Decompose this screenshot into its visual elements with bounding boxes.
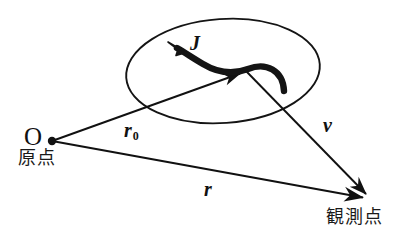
diagram-canvas [0,0,415,239]
vector-v-arrow [246,71,366,194]
label-observation-caption: 観測点 [326,208,383,226]
origin-dot [48,137,56,145]
label-vector-r0: r0 [124,120,139,142]
label-vector-r: r [204,179,212,199]
label-r0-symbol: r [124,119,132,141]
label-origin-caption: 原点 [18,149,56,167]
label-r0-subscript: 0 [133,129,140,143]
physics-vector-diagram: J r0 v r O 原点 観測点 [0,0,415,239]
label-current-density-J: J [190,33,201,53]
vector-r0-arrow [52,74,240,142]
label-origin-symbol: O [24,124,42,149]
current-density-curved-arrow [168,42,284,91]
label-vector-v: v [323,115,332,135]
